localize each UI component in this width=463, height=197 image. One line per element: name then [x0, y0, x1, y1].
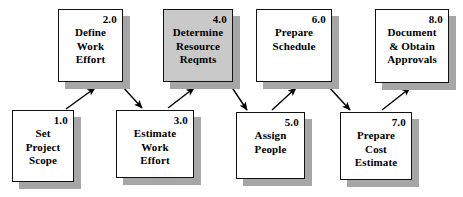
node-document-obtain-approvals[interactable]: 8.0Document& ObtainApprovals — [375, 9, 449, 83]
node-title-line: Work — [77, 40, 104, 54]
node-id-label: 6.0 — [312, 13, 326, 26]
node-title-line: Cost — [365, 143, 387, 157]
node-id-label: 1.0 — [54, 114, 68, 127]
node-title: EstimateWorkEffort — [122, 127, 188, 168]
node-prepare-cost-estimate[interactable]: 7.0PrepareCostEstimate — [340, 112, 412, 180]
node-title-line: People — [255, 143, 287, 157]
node-title-line: Estimate — [355, 156, 397, 170]
node-content: 2.0DefineWorkEffort — [59, 10, 122, 81]
edge-1-to-2 — [66, 88, 95, 109]
node-title-line: Assign — [255, 129, 287, 143]
node-set-project-scope[interactable]: 1.0SetProjectScope — [12, 110, 74, 182]
edge-6-to-7 — [328, 86, 350, 110]
node-title-line: Estimate — [134, 127, 176, 141]
node-title: PrepareCostEstimate — [346, 129, 406, 170]
process-flow-diagram: 1.0SetProjectScope2.0DefineWorkEffort3.0… — [0, 0, 463, 197]
node-title-line: Prepare — [357, 129, 395, 143]
edge-7-to-8 — [382, 88, 410, 110]
node-title: DetermineResourceReqmts — [169, 26, 227, 67]
node-title-line: Reqmts — [180, 53, 217, 67]
node-title: AssignPeople — [242, 129, 299, 156]
node-id-label: 5.0 — [285, 116, 299, 129]
node-title-line: & Obtain — [389, 40, 435, 54]
node-define-work-effort[interactable]: 2.0DefineWorkEffort — [58, 9, 123, 82]
node-id-label: 2.0 — [103, 13, 117, 26]
node-prepare-schedule[interactable]: 6.0PrepareSchedule — [256, 9, 332, 82]
node-title-line: Work — [141, 141, 168, 155]
node-id-label: 8.0 — [429, 13, 443, 26]
node-title-line: Determine — [173, 26, 223, 40]
node-content: 5.0AssignPeople — [237, 113, 304, 178]
node-id-label: 4.0 — [213, 13, 227, 26]
node-title-line: Define — [75, 26, 106, 40]
node-estimate-work-effort[interactable]: 3.0EstimateWorkEffort — [116, 110, 194, 178]
node-content: 3.0EstimateWorkEffort — [117, 111, 193, 177]
node-id-label: 7.0 — [392, 116, 406, 129]
node-title: SetProjectScope — [18, 127, 68, 168]
node-title-line: Scope — [29, 154, 57, 168]
node-title-line: Prepare — [275, 26, 313, 40]
node-content: 8.0Document& ObtainApprovals — [376, 10, 448, 82]
node-id-label: 3.0 — [174, 114, 188, 127]
node-title-line: Set — [36, 127, 51, 141]
node-title-line: Effort — [140, 154, 169, 168]
edge-2-to-3 — [122, 86, 142, 108]
node-title: Document& ObtainApprovals — [381, 26, 443, 67]
node-title: DefineWorkEffort — [64, 26, 117, 67]
node-determine-resource-reqmts[interactable]: 4.0DetermineResourceReqmts — [163, 9, 233, 82]
node-assign-people[interactable]: 5.0AssignPeople — [236, 112, 305, 179]
edges-group — [66, 86, 410, 110]
node-title-line: Resource — [176, 40, 220, 54]
edge-4-to-5 — [231, 86, 247, 110]
node-content: 4.0DetermineResourceReqmts — [164, 10, 232, 81]
node-content: 7.0PrepareCostEstimate — [341, 113, 411, 179]
node-content: 6.0PrepareSchedule — [257, 10, 331, 81]
node-title-line: Approvals — [387, 53, 437, 67]
node-title-line: Document — [387, 26, 436, 40]
node-title-line: Schedule — [273, 40, 316, 54]
node-title-line: Project — [26, 141, 61, 155]
edge-5-to-6 — [272, 88, 296, 110]
edge-3-to-4 — [168, 88, 194, 108]
node-title-line: Effort — [76, 53, 105, 67]
node-content: 1.0SetProjectScope — [13, 111, 73, 181]
node-title: PrepareSchedule — [262, 26, 326, 53]
